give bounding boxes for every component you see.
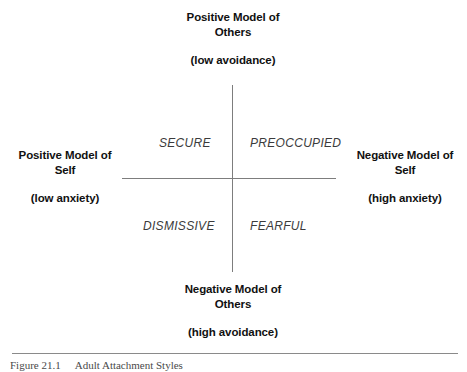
axis-label-left: Positive Model of Self [4,148,126,177]
figure-caption: Figure 21.1Adult Attachment Styles [10,359,450,372]
quadrant-label-fearful: FEARFUL [250,219,307,233]
axis-label-top: Positive Model of Others [143,10,323,39]
quadrant-label-preoccupied: PREOCCUPIED [250,136,341,150]
axis-sublabel-right: (high anxiety) [345,191,465,206]
axis-sublabel-left: (low anxiety) [4,191,126,206]
figure-caption-text: Adult Attachment Styles [75,359,183,371]
quadrant-label-secure: SECURE [159,136,211,150]
axis-sublabel-bottom: (high avoidance) [143,325,323,340]
figure-caption-number: Figure 21.1 [10,359,61,371]
axis-sublabel-top: (low avoidance) [143,53,323,68]
caption-divider-rule [12,353,458,354]
horizontal-axis-line [122,178,336,179]
axis-label-bottom: Negative Model of Others [143,282,323,311]
axis-label-right: Negative Model of Self [345,148,465,177]
quadrant-label-dismissive: DISMISSIVE [143,219,215,233]
